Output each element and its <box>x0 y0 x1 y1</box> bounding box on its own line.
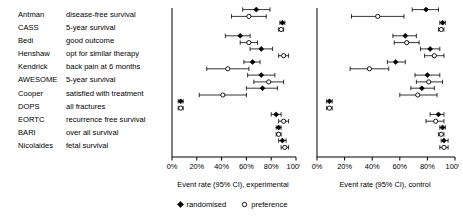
study-name: Nicolaides <box>18 139 66 152</box>
open-circle-marker-icon <box>427 80 431 84</box>
forest-datapoint <box>178 99 183 104</box>
forest-datapoint <box>232 14 267 18</box>
open-circle-marker-icon <box>282 54 286 58</box>
legend-item: preference <box>240 199 287 209</box>
study-row: Kendrickback pain at 6 months <box>18 60 168 73</box>
study-label-table: Antmandisease-free survivalCASS5-year su… <box>18 8 168 152</box>
study-row: Nicolaidesfetal survival <box>18 139 168 152</box>
forest-datapoint <box>207 67 249 71</box>
forest-datapoint <box>248 73 275 78</box>
filled-diamond-marker-icon <box>274 112 279 117</box>
forest-datapoint <box>271 112 281 117</box>
study-name: AWESOME <box>18 73 66 86</box>
filled-diamond-marker-icon <box>178 99 183 104</box>
filled-diamond-marker-icon <box>424 7 429 12</box>
study-outcome: 5-year survival <box>66 21 115 34</box>
filled-diamond-marker-icon <box>428 46 433 51</box>
study-row: DOPSall fractures <box>18 100 168 113</box>
study-row: EORTCrecurrence free survival <box>18 113 168 126</box>
open-circle-marker-icon <box>439 132 443 136</box>
open-circle-marker-icon <box>432 54 436 58</box>
open-circle-marker-icon <box>367 67 371 71</box>
axis-title-experimental: Event rate (95% CI), experimental <box>166 180 300 189</box>
study-row: AWESOME5-year survival <box>18 73 168 86</box>
open-circle-marker-icon <box>439 27 443 31</box>
forest-panel-control: 0%20%40%60%80%100% <box>311 6 459 180</box>
forest-datapoint <box>279 138 286 143</box>
forest-chart-svg: 0%20%40%60%80%100% <box>166 6 300 180</box>
forest-datapoint <box>327 99 333 104</box>
legend-label: preference <box>251 200 287 209</box>
x-axis-tick-label: 40% <box>365 162 380 171</box>
study-outcome: all fractures <box>66 100 105 113</box>
filled-diamond-marker-icon <box>419 86 424 91</box>
study-outcome: good outcome <box>66 34 114 47</box>
filled-diamond-marker-icon <box>440 20 445 25</box>
forest-datapoint <box>441 138 448 143</box>
forest-datapoint <box>412 7 438 12</box>
open-circle-marker-icon <box>267 80 271 84</box>
study-name: Henshaw <box>18 47 66 60</box>
open-circle-marker-icon <box>179 106 183 110</box>
study-name: CASS <box>18 21 66 34</box>
study-row: Bedigood outcome <box>18 34 168 47</box>
forest-datapoint <box>280 20 285 25</box>
study-outcome: disease-free survival <box>66 8 136 21</box>
open-circle-marker-icon <box>442 145 446 149</box>
study-row: Coopersatisfied with treatment <box>18 87 168 100</box>
study-outcome: satisfied with treatment <box>66 87 144 100</box>
filled-diamond-marker-icon <box>250 60 255 65</box>
open-circle-marker-icon <box>282 119 286 123</box>
forest-datapoint <box>440 145 448 149</box>
open-circle-marker-icon <box>221 93 225 97</box>
study-row: Antmandisease-free survival <box>18 8 168 21</box>
study-outcome: fetal survival <box>66 139 108 152</box>
x-axis-tick-label: 100% <box>446 162 459 171</box>
filled-diamond-marker-icon <box>276 125 281 130</box>
forest-datapoint <box>440 125 446 130</box>
forest-datapoint <box>411 86 434 91</box>
forest-datapoint <box>387 60 405 65</box>
open-circle-marker-icon <box>376 14 380 18</box>
filled-diamond-marker-icon <box>259 73 264 78</box>
forest-panel-experimental: 0%20%40%60%80%100% <box>166 6 300 180</box>
forest-datapoint <box>276 132 281 136</box>
forest-datapoint <box>254 80 284 84</box>
filled-diamond-marker-icon <box>280 20 285 25</box>
x-axis-tick-label: 80% <box>420 162 435 171</box>
filled-diamond-marker-icon <box>254 7 259 12</box>
forest-datapoint <box>350 67 389 71</box>
filled-diamond-marker-icon <box>440 125 445 130</box>
forest-datapoint <box>415 73 440 78</box>
study-row: CASS5-year survival <box>18 21 168 34</box>
filled-diamond-marker-icon <box>327 99 332 104</box>
x-axis-tick-label: 0% <box>167 162 178 171</box>
forest-datapoint <box>279 27 284 31</box>
filled-diamond-marker-icon <box>441 138 446 143</box>
open-circle-marker-icon <box>226 67 230 71</box>
study-outcome: recurrence free survival <box>66 113 145 126</box>
study-row: Henshawopt for similar therapy <box>18 47 168 60</box>
forest-datapoint <box>243 7 270 12</box>
x-axis-tick-label: 100% <box>287 162 300 171</box>
filled-diamond-marker-icon <box>238 33 243 38</box>
x-axis-tick-label: 60% <box>239 162 254 171</box>
filled-diamond-marker-icon <box>280 138 285 143</box>
forest-datapoint <box>246 86 277 91</box>
study-outcome: opt for similar therapy <box>66 47 139 60</box>
x-axis-tick-label: 40% <box>214 162 229 171</box>
filled-diamond-marker-icon <box>393 60 398 65</box>
filled-diamond-marker-icon <box>403 33 408 38</box>
open-circle-marker-icon <box>434 119 438 123</box>
open-circle-marker-icon <box>279 27 283 31</box>
forest-datapoint <box>250 46 272 51</box>
filled-diamond-shape <box>177 201 183 207</box>
open-circle-marker-icon <box>247 41 251 45</box>
forest-datapoint <box>440 20 446 25</box>
forest-datapoint <box>199 93 246 97</box>
x-axis-tick-label: 20% <box>337 162 352 171</box>
study-outcome: 5-year survival <box>66 73 115 86</box>
study-name: Bedi <box>18 34 66 47</box>
open-circle-marker-icon <box>327 106 331 110</box>
x-axis-tick-label: 20% <box>189 162 204 171</box>
